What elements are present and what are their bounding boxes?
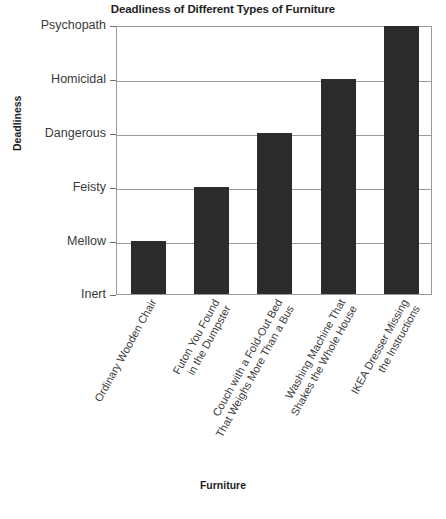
bar-slot bbox=[307, 27, 370, 294]
y-tick-label-inert: Inert bbox=[0, 287, 106, 301]
bar-couch-with-a-fold-out-bed[interactable] bbox=[257, 133, 292, 294]
y-tick-label-psychopath: Psychopath bbox=[0, 18, 106, 32]
bar-ikea-dresser-missing-the-instructions[interactable] bbox=[384, 26, 419, 294]
y-tick-label-dangerous: Dangerous bbox=[0, 126, 106, 140]
x-axis-labels: Ordinary Wooden Chair Futon You Found in… bbox=[116, 297, 432, 457]
chart-title: Deadliness of Different Types of Furnitu… bbox=[0, 3, 446, 15]
bar-chart: Deadliness of Different Types of Furnitu… bbox=[0, 0, 446, 519]
bars-layer bbox=[117, 27, 431, 294]
bar-futon-you-found-in-the-dumpster[interactable] bbox=[194, 187, 229, 294]
bar-washing-machine-that-shakes-the-whole-house[interactable] bbox=[321, 79, 356, 294]
y-tick-mark-inert bbox=[110, 295, 116, 296]
y-tick-label-homicidal: Homicidal bbox=[0, 72, 106, 86]
plot-area bbox=[116, 26, 432, 295]
bar-slot bbox=[117, 27, 180, 294]
y-tick-label-feisty: Feisty bbox=[0, 180, 106, 194]
y-tick-label-mellow: Mellow bbox=[0, 234, 106, 248]
bar-slot bbox=[370, 27, 433, 294]
x-axis-title: Furniture bbox=[0, 479, 446, 491]
bar-slot bbox=[243, 27, 306, 294]
bar-slot bbox=[180, 27, 243, 294]
bar-ordinary-wooden-chair[interactable] bbox=[131, 241, 166, 294]
